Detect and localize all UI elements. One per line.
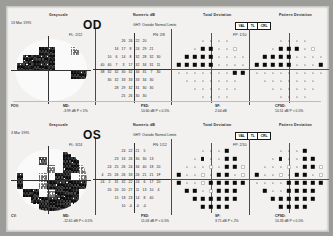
- deviation-symbol: [295, 205, 299, 209]
- numeric-cell: [113, 39, 120, 43]
- grayscale-axis-vertical: [48, 36, 49, 104]
- numeric-row: 25263030: [99, 94, 162, 98]
- ght-result-os: GHT: Outside Normal Limits: [133, 133, 176, 137]
- numeric-cell: 33: [127, 78, 134, 82]
- ght-cell-crl-os: CRL: [258, 133, 270, 139]
- deviation-symbol: [319, 181, 323, 185]
- deviation-symbol: [287, 55, 291, 59]
- deviation-symbol: [178, 72, 179, 73]
- deviation-symbol: [296, 56, 297, 57]
- numeric-cell: [155, 149, 162, 153]
- numeric-cell: 24: [120, 149, 127, 153]
- deviation-symbol: [279, 197, 283, 201]
- pattern-deviation-plot-od: [253, 37, 327, 101]
- deviation-symbol: [280, 40, 281, 41]
- numeric-cell: 26: [120, 173, 127, 177]
- deviation-symbol: [312, 80, 313, 81]
- deviation-symbol: [194, 88, 195, 89]
- numeric-cell: [155, 204, 162, 208]
- deviation-symbol: [201, 205, 205, 209]
- pd-axis-vertical-os: [289, 143, 290, 213]
- deviation-symbol: [193, 197, 197, 201]
- stat-sf-value-os: 3.71 dB P < 2%: [215, 219, 239, 223]
- numeric-cell: 17: [148, 180, 155, 184]
- numeric-row: 231626303013: [99, 157, 162, 161]
- numeric-cell: [148, 94, 155, 98]
- deviation-symbol: [304, 64, 305, 65]
- numeric-cell: 10: [106, 55, 113, 59]
- deviation-symbol: [209, 205, 213, 209]
- deviation-symbol: [287, 197, 291, 201]
- panel-divider-2-os: [171, 139, 172, 215]
- deviation-symbol: [226, 96, 227, 97]
- stat-sf-label-os: SF:: [215, 214, 220, 218]
- deviation-symbol: [225, 181, 229, 185]
- deviation-symbol: [271, 55, 275, 59]
- ght-cell-val-os: VAL: [236, 133, 248, 139]
- deviation-symbol: [241, 71, 245, 75]
- numeric-row: 2422215: [99, 149, 162, 153]
- numeric-cell: 30: [106, 78, 113, 82]
- stat-cpsd-label-od: CPSD:: [275, 104, 286, 108]
- column-header-grayscale: Grayscale: [49, 13, 68, 17]
- deviation-symbol: [296, 80, 297, 81]
- deviation-symbol: [272, 72, 273, 73]
- deviation-symbol: [303, 173, 307, 177]
- screenshot-root: Grayscale Numeric dB Total Deviation Pat…: [0, 0, 333, 236]
- deviation-symbol: [201, 157, 205, 161]
- numeric-cell: [99, 149, 106, 153]
- numeric-cell: 29: [120, 86, 127, 90]
- deviation-symbol: [287, 47, 291, 51]
- deviation-symbol: [194, 158, 195, 159]
- numeric-cell: 25: [106, 173, 113, 177]
- deviation-symbol: [233, 165, 237, 169]
- deviation-symbol: [201, 55, 205, 59]
- deviation-symbol: [194, 48, 195, 49]
- stats-row-os: CV: MD: -12.61 dB P < 0.5% PSD: 11.03 dB…: [7, 213, 328, 227]
- numeric-cell: [155, 86, 162, 90]
- deviation-symbol: [312, 72, 313, 73]
- deviation-symbol: [312, 174, 313, 175]
- stat-sf-value-od: 2.04 dB: [215, 109, 227, 113]
- numeric-cell: 23: [113, 157, 120, 161]
- numeric-cell: 30: [141, 157, 148, 161]
- numeric-cell: 30: [120, 70, 127, 74]
- numeric-cell: [99, 55, 106, 59]
- numeric-cell: 20: [141, 39, 148, 43]
- numeric-cell: 24: [99, 180, 106, 184]
- eye-block-od: Grayscale Numeric dB Total Deviation Pat…: [7, 9, 328, 119]
- numeric-cell: 30: [148, 78, 155, 82]
- deviation-symbol: [280, 166, 281, 167]
- numeric-cell: 20: [106, 188, 113, 192]
- deviation-symbol: [217, 181, 221, 185]
- numeric-cell: [106, 196, 113, 200]
- deviation-symbol: [234, 80, 235, 81]
- panel-divider-1-os: [95, 139, 96, 215]
- numeric-cell: 14: [120, 55, 127, 59]
- deviation-symbol: [264, 80, 265, 81]
- deviation-symbol: [272, 48, 273, 49]
- numeric-cell: 15: [113, 196, 120, 200]
- deviation-symbol: [311, 157, 315, 161]
- deviation-symbol: [287, 189, 291, 193]
- deviation-symbol: [272, 88, 273, 89]
- numeric-cell: [99, 47, 106, 51]
- numeric-cell: 40: [99, 63, 106, 67]
- deviation-symbol: [226, 40, 227, 41]
- numeric-cell: 22: [134, 39, 141, 43]
- test-date-od: 13 Mar 1995: [11, 21, 31, 25]
- numeric-cell: [106, 94, 113, 98]
- numeric-cell: 30: [141, 94, 148, 98]
- numeric-cell: 30: [134, 157, 141, 161]
- stat-fov-label-os: CV:: [11, 214, 17, 218]
- deviation-symbol: [263, 63, 267, 67]
- deviation-symbol: [202, 96, 203, 97]
- numeric-cell: 26: [120, 165, 127, 169]
- deviation-symbol: [272, 166, 273, 167]
- numeric-cell: 30: [155, 55, 162, 59]
- deviation-symbol: [194, 166, 195, 167]
- deviation-symbol: [312, 56, 313, 57]
- stat-psd-label-os: PSD:: [141, 214, 149, 218]
- deviation-symbol: [210, 190, 213, 193]
- panel-divider-3: [249, 29, 250, 105]
